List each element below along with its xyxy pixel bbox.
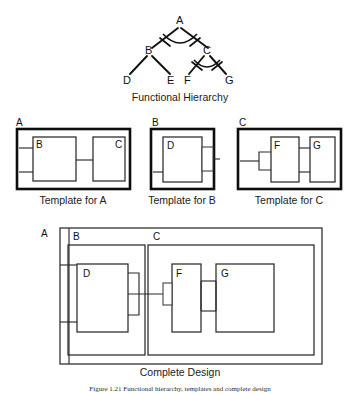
complete-design-outer-label: A [41, 228, 48, 239]
template-c: C F G Template for C [238, 117, 341, 206]
template-b-outer-label: B [152, 117, 159, 128]
tree-node-g: G [225, 74, 234, 86]
template-a: A B C Template for A [16, 117, 130, 206]
template-b-caption: Template for B [148, 194, 216, 206]
template-b-block-d-label: D [167, 140, 174, 151]
hierarchy-caption: Functional Hierarchy [132, 91, 229, 103]
template-b-stub-box [202, 147, 213, 171]
tree-node-f: F [184, 74, 191, 86]
tree-node-e: E [167, 74, 174, 86]
tree-edge-b-e [152, 56, 170, 74]
template-c-caption: Template for C [255, 194, 324, 206]
tree-edge-a-b [152, 28, 178, 48]
template-a-outer-label: A [16, 117, 23, 128]
complete-design: A B C D F G [41, 228, 322, 378]
template-c-block-g-label: G [313, 140, 321, 151]
template-c-block-f-label: F [274, 140, 280, 151]
template-b: B D Template for B [148, 117, 220, 206]
complete-design-label-c: C [153, 231, 160, 242]
tree-node-c: C [203, 44, 211, 56]
tree-edge-b-d [130, 56, 147, 74]
template-c-outer-label: C [239, 117, 246, 128]
tree-node-a: A [176, 14, 184, 26]
complete-design-block-f-label: F [176, 268, 182, 279]
complete-design-block-g-label: G [221, 268, 229, 279]
complete-design-label-b: B [73, 231, 80, 242]
complete-design-stub-f [163, 283, 172, 305]
figure-caption: Figure 1.21 Functional hierarchy, templa… [89, 385, 271, 393]
complete-design-block-d-label: D [83, 268, 90, 279]
template-a-block-b-label: B [36, 139, 43, 150]
tree-node-b: B [145, 44, 152, 56]
complete-design-caption: Complete Design [140, 366, 221, 378]
figure-root: A B C D E F G Functional Hierarchy A B C… [0, 0, 356, 393]
figure-canvas: A B C D E F G Functional Hierarchy A B C… [0, 0, 356, 393]
tree-node-d: D [123, 74, 131, 86]
template-a-caption: Template for A [39, 194, 106, 206]
template-a-block-c-label: C [115, 139, 122, 150]
functional-hierarchy-tree: A B C D E F G Functional Hierarchy [123, 14, 234, 103]
